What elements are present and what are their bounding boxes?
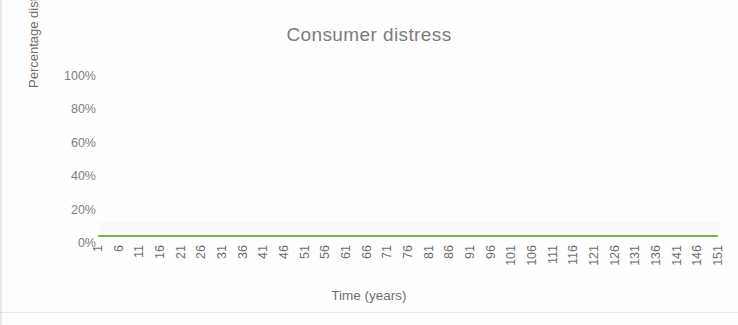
scan-artifact-bottom-line (0, 312, 738, 313)
x-axis-tick-label: 61 (339, 227, 353, 267)
x-axis-tick-label: 121 (587, 227, 601, 267)
x-axis-tick-label: 71 (380, 227, 394, 267)
chart-figure: Consumer distress Percentage distress 10… (0, 0, 738, 325)
x-axis-tick-label: 6 (112, 227, 126, 267)
x-axis-tick-label: 31 (215, 227, 229, 267)
x-axis-tick-label: 76 (401, 227, 415, 267)
x-axis-tick-label: 21 (174, 227, 188, 267)
x-axis-tick-label: 126 (608, 227, 622, 267)
y-axis-tick-label: 100% (50, 70, 96, 82)
x-axis-tick-labels: 1611162126313641465156616671768186919610… (98, 240, 718, 286)
y-axis-tick-labels: 100%80%60%40%20%0% (50, 64, 96, 244)
x-axis-tick-label: 16 (153, 227, 167, 267)
y-axis-tick-label: 60% (50, 137, 96, 149)
x-axis-tick-label: 151 (711, 227, 725, 267)
x-axis-tick-label: 106 (525, 227, 539, 267)
x-axis-tick-label: 116 (566, 227, 580, 267)
plot-area (98, 70, 718, 237)
x-axis-tick-label: 81 (422, 227, 436, 267)
x-axis-tick-label: 136 (649, 227, 663, 267)
x-axis-title: Time (years) (0, 288, 738, 303)
y-axis-title: Percentage distress (26, 0, 42, 88)
x-axis-tick-label: 86 (442, 227, 456, 267)
x-axis-tick-label: 41 (256, 227, 270, 267)
y-axis-tick-label: 20% (50, 204, 96, 216)
x-axis-tick-label: 11 (132, 227, 146, 267)
x-axis-tick-label: 26 (194, 227, 208, 267)
scan-artifact-left-edge (0, 0, 3, 325)
y-axis-tick-label: 80% (50, 103, 96, 115)
x-axis-tick-label: 51 (298, 227, 312, 267)
x-axis-tick-label: 146 (690, 227, 704, 267)
y-axis-tick-label: 40% (50, 170, 96, 182)
chart-title: Consumer distress (0, 24, 738, 46)
x-axis-tick-label: 46 (277, 227, 291, 267)
x-axis-tick-label: 111 (546, 227, 560, 267)
x-axis-tick-label: 36 (236, 227, 250, 267)
x-axis-tick-label: 66 (360, 227, 374, 267)
x-axis-tick-label: 101 (504, 227, 518, 267)
x-axis-tick-label: 131 (628, 227, 642, 267)
x-axis-tick-label: 91 (463, 227, 477, 267)
x-axis-tick-label: 1 (91, 227, 105, 267)
x-axis-tick-label: 141 (670, 227, 684, 267)
x-axis-tick-label: 96 (484, 227, 498, 267)
y-axis-tick-label: 0% (50, 237, 96, 249)
x-axis-tick-label: 56 (318, 227, 332, 267)
